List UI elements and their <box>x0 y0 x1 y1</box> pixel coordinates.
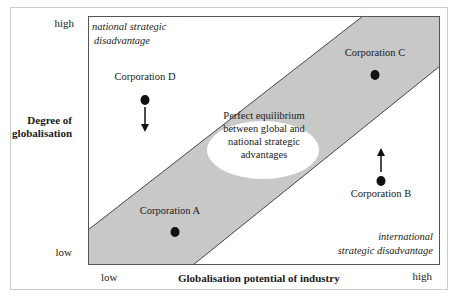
equilibrium-text-line3: national strategic <box>228 136 300 147</box>
corporation-a-dot <box>171 227 180 237</box>
corporation-d-label: Corporation D <box>115 71 176 82</box>
x-axis-high-label: high <box>412 270 432 282</box>
region-international-disadvantage-line2: strategic disadvantage <box>338 245 434 256</box>
region-national-disadvantage-line2: disadvantage <box>94 35 150 46</box>
region-national-disadvantage-line1: national strategic <box>92 21 167 32</box>
y-axis-low-label: low <box>56 246 73 258</box>
equilibrium-text-line2: between global and <box>223 123 305 134</box>
corporation-d-dot <box>141 95 150 105</box>
equilibrium-text-line1: Perfect equilibrium <box>223 110 304 121</box>
y-axis-title-line2: globalisation <box>12 127 72 139</box>
x-axis-title: Globalisation potential of industry <box>178 272 340 284</box>
x-axis-low-label: low <box>101 271 118 283</box>
equilibrium-text-line4: advantages <box>241 149 288 160</box>
globalisation-diagram: high low Degree of globalisation low Glo… <box>0 0 457 298</box>
region-international-disadvantage-line1: international <box>378 231 433 242</box>
y-axis-high-label: high <box>54 17 74 29</box>
corporation-a-label: Corporation A <box>140 205 201 216</box>
y-axis-title-line1: Degree of <box>27 114 72 126</box>
corporation-b-dot <box>377 176 386 186</box>
corporation-c-label: Corporation C <box>345 47 405 58</box>
corporation-c-dot <box>371 70 380 80</box>
corporation-b-label: Corporation B <box>351 188 411 199</box>
